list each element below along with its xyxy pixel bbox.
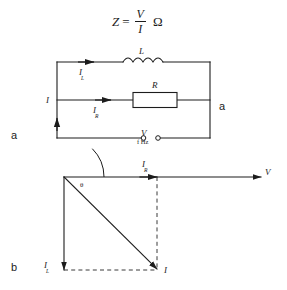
terminal-label-a-right: a (219, 101, 225, 112)
inductor-symbol (123, 58, 163, 62)
circuit-current-resistor-label: IR (93, 106, 99, 117)
resistor-symbol (133, 93, 177, 108)
phasor-current-inductor-label: IL (44, 261, 50, 272)
current-resistor-sub: R (95, 113, 98, 119)
circuit-current-total-label: I (46, 96, 49, 105)
phasor-il-sub: L (46, 268, 49, 274)
source-voltage-label: V (141, 129, 147, 138)
phasor-current-total-label: I (164, 266, 167, 275)
part-label-b: b (11, 262, 17, 273)
phasor-angle-label: θ (80, 182, 83, 189)
part-label-a: a (11, 130, 17, 141)
figure-canvas: Z = V I Ω a b L R IL IR I V f Hz a a V I… (0, 0, 287, 290)
current-inductor-sub: L (81, 75, 84, 81)
phasor-current-resistor-label: IR (142, 160, 148, 171)
source-frequency-label: f Hz (137, 139, 148, 146)
phasor-ir-sub: R (144, 167, 147, 173)
resistor-label: R (152, 81, 158, 90)
formula-fraction: V I (135, 8, 146, 35)
impedance-formula: Z = V I Ω (112, 8, 163, 35)
inductor-label: L (139, 47, 144, 56)
phasor-voltage-label: V (265, 168, 271, 177)
angle-arc (92, 149, 104, 177)
phasor-diagram (64, 177, 261, 270)
formula-equals: = (122, 15, 129, 28)
phasor-current-total (64, 177, 157, 269)
formula-denominator: I (136, 22, 144, 35)
formula-unit: Ω (153, 15, 163, 28)
circuit-current-inductor-label: IL (79, 68, 85, 79)
formula-numerator: V (135, 8, 146, 21)
formula-symbol: Z (112, 15, 119, 28)
